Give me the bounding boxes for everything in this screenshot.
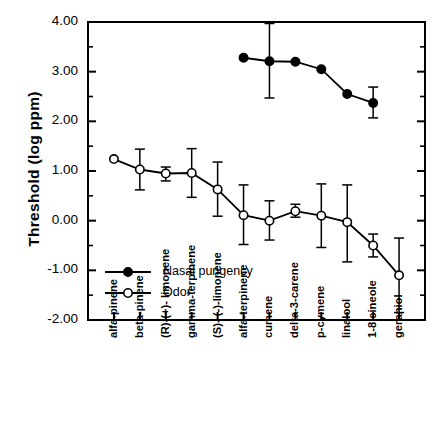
series-line [114,159,399,275]
data-point-marker [187,169,195,177]
x-tick-label: 1-8 cineole [366,280,378,338]
data-point-marker [239,54,247,62]
y-tick-label: 4.00 [26,13,78,28]
y-tick-label: -2.00 [26,311,78,326]
y-tick-label: -1.00 [26,261,78,276]
data-point-marker [265,216,273,224]
data-point-marker [395,271,403,279]
data-point-marker [162,169,170,177]
x-tick-label: geraniol [392,294,404,338]
data-point-marker [317,65,325,73]
chart-figure: Threshold (log ppm) 4.003.002.001.000.00… [0,0,443,448]
data-point-marker [110,155,118,163]
data-point-marker [239,211,247,219]
y-tick-label: 0.00 [26,212,78,227]
x-tick-label: delta-3-carene [288,262,300,338]
data-point-marker [291,207,299,215]
data-point-marker [369,99,377,107]
y-tick-label: 2.00 [26,112,78,127]
series-line [244,58,374,103]
y-tick-label: 3.00 [26,63,78,78]
x-tick-label: alfa-pinene [107,279,119,338]
data-point-marker [317,212,325,220]
x-tick-label: linalool [340,299,352,338]
data-point-marker [343,218,351,226]
data-point-marker [369,241,377,249]
data-point-marker [136,165,144,173]
legend-label: Nasal pungency [163,264,253,278]
data-point-marker [291,58,299,66]
y-tick-label: 1.00 [26,162,78,177]
data-point-marker [343,90,351,98]
legend-label: Odor [163,285,191,299]
x-tick-label: cumene [262,296,274,338]
x-tick-label: beta-pinene [133,275,145,338]
data-point-marker [213,185,221,193]
data-point-marker [265,57,273,65]
x-tick-label: p-cymene [314,286,326,338]
